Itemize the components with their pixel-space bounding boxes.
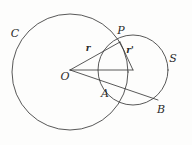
circle-c bbox=[12, 14, 128, 130]
label-radius-r-prime: r' bbox=[126, 46, 134, 55]
figure-canvas bbox=[0, 0, 192, 145]
geometry-figure: C S O P A B r r' bbox=[0, 0, 192, 145]
segment-o-to-p bbox=[70, 42, 120, 70]
label-point-o: O bbox=[60, 71, 69, 82]
label-point-p: P bbox=[117, 25, 124, 36]
segment-o-to-b bbox=[70, 70, 158, 100]
label-point-a: A bbox=[101, 88, 109, 99]
label-circle-c: C bbox=[11, 28, 19, 39]
label-circle-s: S bbox=[169, 53, 177, 64]
label-point-b: B bbox=[157, 104, 165, 115]
label-radius-r: r bbox=[86, 44, 91, 53]
